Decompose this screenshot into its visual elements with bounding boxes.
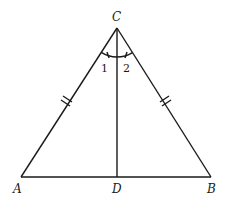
congruence-mark-ac bbox=[61, 96, 72, 106]
label-a: A bbox=[12, 182, 22, 196]
triangle-diagram: C A D B 1 2 bbox=[0, 0, 232, 207]
label-b: B bbox=[206, 182, 216, 196]
angle-1-label: 1 bbox=[101, 62, 108, 75]
angle-1-tick bbox=[107, 52, 109, 58]
label-c: C bbox=[112, 10, 121, 24]
angle-2-label: 2 bbox=[123, 62, 130, 75]
angle-2-tick bbox=[125, 52, 127, 58]
label-d: D bbox=[111, 182, 122, 196]
segment-ac bbox=[21, 28, 117, 177]
segment-bc bbox=[117, 28, 211, 177]
